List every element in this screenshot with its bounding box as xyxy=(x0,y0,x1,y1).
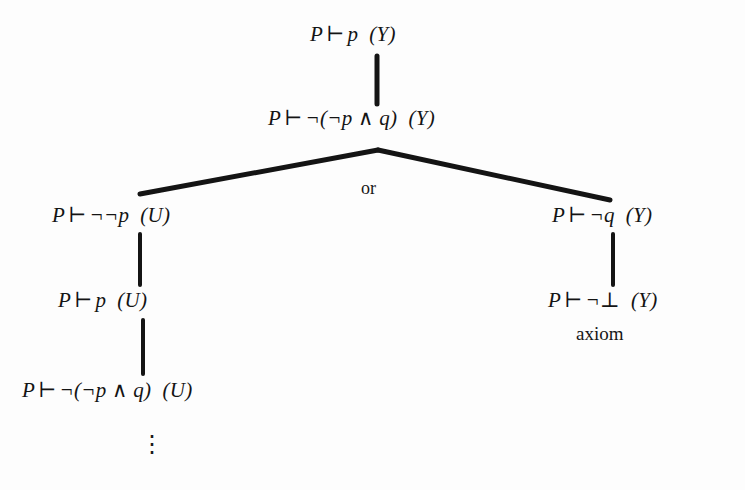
node-left3-left: P xyxy=(22,378,35,402)
node-root: P⊢p(Y) xyxy=(310,24,396,45)
edge-n2-to-right1-fork xyxy=(378,150,610,200)
axiom-label: axiom xyxy=(576,323,624,345)
node-left1-left: P xyxy=(52,203,65,227)
node-right-branch-1: P⊢¬q(Y) xyxy=(552,205,652,226)
node-right1-left: P xyxy=(552,203,565,227)
proof-tree-figure: P⊢p(Y) P⊢¬(¬p ∧ q)(Y) P⊢¬¬p(U) P⊢¬q(Y) P… xyxy=(0,0,745,490)
turnstile-icon: ⊢ xyxy=(561,288,585,312)
turnstile-icon: ⊢ xyxy=(323,22,347,46)
node-root-formula: p xyxy=(348,22,359,46)
turnstile-icon: ⊢ xyxy=(565,203,589,227)
node-right2-tag: (Y) xyxy=(620,288,658,312)
node-left2-tag: (U) xyxy=(106,288,147,312)
or-branch-label: or xyxy=(361,178,376,199)
node-left-branch-1: P⊢¬¬p(U) xyxy=(52,205,170,226)
node-right2-formula: ¬⊥ xyxy=(586,288,621,312)
node-left-branch-2: P⊢p(U) xyxy=(58,290,147,311)
node-root-tag: (Y) xyxy=(358,22,396,46)
edge-n2-to-left1-fork xyxy=(140,150,378,194)
node-second-tag: (Y) xyxy=(397,106,435,130)
node-right1-formula: ¬q xyxy=(590,203,615,227)
turnstile-icon: ⊢ xyxy=(281,106,305,130)
turnstile-icon: ⊢ xyxy=(65,203,89,227)
node-left1-tag: (U) xyxy=(129,203,170,227)
node-left1-formula: ¬¬p xyxy=(90,203,130,227)
node-second: P⊢¬(¬p ∧ q)(Y) xyxy=(268,108,435,129)
node-left2-left: P xyxy=(58,288,71,312)
vertical-ellipsis-icon: ⋮ xyxy=(140,432,164,456)
turnstile-icon: ⊢ xyxy=(35,378,59,402)
node-right1-tag: (Y) xyxy=(615,203,653,227)
node-second-left: P xyxy=(268,106,281,130)
turnstile-icon: ⊢ xyxy=(71,288,95,312)
node-root-left: P xyxy=(310,22,323,46)
node-left3-formula: ¬(¬p ∧ q) xyxy=(60,378,152,402)
node-right-branch-2: P⊢¬⊥(Y) xyxy=(548,290,658,311)
node-second-formula: ¬(¬p ∧ q) xyxy=(306,106,398,130)
node-left2-formula: p xyxy=(96,288,107,312)
node-left-branch-3: P⊢¬(¬p ∧ q)(U) xyxy=(22,380,192,401)
node-right2-left: P xyxy=(548,288,561,312)
tree-edges xyxy=(0,0,745,490)
node-left3-tag: (U) xyxy=(151,378,192,402)
